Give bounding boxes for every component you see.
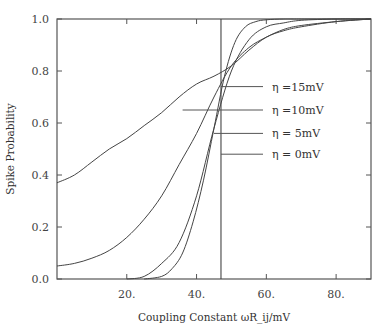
y-tick-label: 0.4 [32,169,50,182]
legend-label: η =10mV [272,104,325,117]
data-series [57,19,371,279]
y-tick-label: 0.6 [32,117,50,130]
legend-label: η = 0mV [272,148,321,161]
spike-probability-chart: 0.00.20.40.60.81.0 20.40.60.80. η =15mVη… [0,0,380,335]
y-tick-label: 0.0 [32,273,50,286]
x-tick-label: 80. [327,288,345,301]
plot-border [57,19,371,279]
series-line-0 [57,19,371,183]
series-line-3 [144,19,371,279]
legend: η =15mVη =10mVη = 5mVη = 0mV [183,81,325,162]
series-line-1 [57,19,371,266]
y-axis-label: Spike Probability [4,103,16,195]
plot-frame [57,19,371,279]
x-tick-label: 60. [258,288,276,301]
legend-label: η = 5mV [272,127,321,140]
x-tick-label: 20. [118,288,136,301]
legend-label: η =15mV [272,81,325,94]
series-line-2 [127,19,371,279]
y-tick-label: 1.0 [32,13,50,26]
x-axis-label: Coupling Constant ωR_ij/mV [138,311,291,324]
x-tick-label: 40. [188,288,206,301]
y-tick-label: 0.8 [32,65,50,78]
y-tick-label: 0.2 [32,221,50,234]
